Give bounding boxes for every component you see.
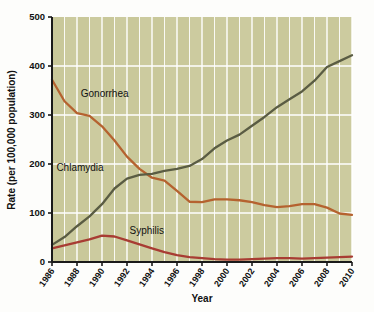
series-label-gonorrhea: Gonorrhea (81, 88, 129, 99)
x-tick-label: 1998 (187, 266, 207, 288)
y-axis-ticks: 0100200300400500 (29, 11, 52, 267)
plot-band (65, 17, 78, 262)
plot-band (265, 17, 278, 262)
x-tick-label: 1990 (87, 266, 107, 288)
series-label-syphilis: Syphilis (130, 225, 164, 236)
plot-band (290, 17, 303, 262)
plot-band (90, 17, 103, 262)
x-tick-label: 2006 (287, 266, 307, 288)
x-tick-label: 1992 (112, 266, 132, 288)
x-tick-label: 1994 (137, 266, 157, 288)
y-tick-label: 0 (40, 256, 45, 267)
x-tick-label: 1988 (62, 266, 82, 288)
x-axis-ticks: 1986198819901992199419961998200020022004… (37, 262, 357, 289)
plot-band (165, 17, 178, 262)
plot-band (327, 17, 340, 262)
x-tick-label: 1986 (37, 266, 57, 288)
plot-band (177, 17, 190, 262)
line-chart: 0100200300400500 19861988199019921994199… (0, 0, 374, 312)
plot-band (277, 17, 290, 262)
y-tick-label: 500 (29, 11, 45, 22)
x-tick-label: 2010 (337, 266, 357, 288)
plot-band (202, 17, 215, 262)
x-tick-label: 2000 (212, 266, 232, 288)
x-tick-label: 2002 (237, 266, 257, 288)
plot-band (52, 17, 65, 262)
y-tick-label: 400 (29, 60, 45, 71)
y-tick-label: 100 (29, 207, 45, 218)
plot-band (115, 17, 128, 262)
x-tick-label: 1996 (162, 266, 182, 288)
plot-band (252, 17, 265, 262)
plot-band (190, 17, 203, 262)
plot-band (315, 17, 328, 262)
x-tick-label: 2004 (262, 266, 282, 288)
x-tick-label: 2008 (312, 266, 332, 288)
x-axis-title: Year (191, 293, 212, 304)
y-tick-label: 300 (29, 109, 45, 120)
y-tick-label: 200 (29, 158, 45, 169)
plot-band (240, 17, 253, 262)
plot-band (302, 17, 315, 262)
figure-container: 0100200300400500 19861988199019921994199… (0, 0, 374, 312)
plot-band (215, 17, 228, 262)
series-label-chlamydia: Chlamydia (56, 162, 104, 173)
y-axis-title: Rate (per 100,000 population) (6, 70, 17, 209)
plot-band (340, 17, 353, 262)
